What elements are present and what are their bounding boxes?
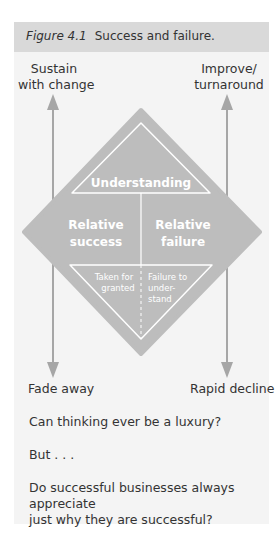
question-line: just why they are successful? bbox=[29, 512, 275, 528]
question-successful-businesses: Do successful businesses always apprecia… bbox=[29, 480, 275, 528]
label-fade-away: Fade away bbox=[28, 381, 94, 397]
label-rapid-decline: Rapid decline bbox=[190, 381, 274, 397]
question-line: Do successful businesses always apprecia… bbox=[29, 480, 275, 512]
section-failure-to-understand-line3: stand bbox=[148, 294, 172, 304]
diamond bbox=[24, 110, 260, 354]
section-understanding: Understanding bbox=[91, 176, 191, 190]
text-but: But . . . bbox=[29, 447, 74, 463]
section-failure-to-understand-line2: under- bbox=[148, 283, 175, 293]
section-failure-to-understand-line1: Failure to bbox=[148, 272, 187, 282]
section-taken-for-granted-line1: Taken for bbox=[94, 272, 134, 282]
section-relative-success-line1: Relative bbox=[68, 218, 123, 232]
section-taken-for-granted-line2: granted bbox=[101, 283, 134, 293]
section-relative-success-line2: success bbox=[70, 235, 122, 249]
question-thinking-luxury: Can thinking ever be a luxury? bbox=[29, 414, 221, 430]
section-relative-failure-line2: failure bbox=[161, 235, 205, 249]
section-relative-failure-line1: Relative bbox=[155, 218, 210, 232]
